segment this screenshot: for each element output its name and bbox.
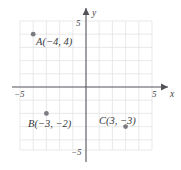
point-label-c: C(3, −3) [99,115,136,127]
point-marker-b [44,111,49,116]
y-axis-tick-negative-five: −5 [71,147,82,157]
point-label-b: B(−3, −2) [28,118,72,130]
x-axis-label: x [169,89,175,99]
coordinate-plane-figure: −5 5 5 −5 x y A(−4, 4) B(−3, −2) C(3, −3… [0,0,181,170]
point-marker-a [31,32,36,37]
axes [12,8,168,162]
x-axis-tick-positive-five: 5 [152,89,157,99]
point-label-a: A(−4, 4) [35,36,73,48]
x-axis-arrow-icon [161,84,168,91]
y-axis-label: y [91,8,97,18]
plotted-points: A(−4, 4) B(−3, −2) C(3, −3) [28,32,136,130]
y-axis-tick-positive-five: 5 [76,18,81,28]
y-axis-arrow-icon [83,8,90,15]
x-axis-tick-negative-five: −5 [14,89,25,99]
coordinate-plane-svg: −5 5 5 −5 x y A(−4, 4) B(−3, −2) C(3, −3… [0,0,181,170]
